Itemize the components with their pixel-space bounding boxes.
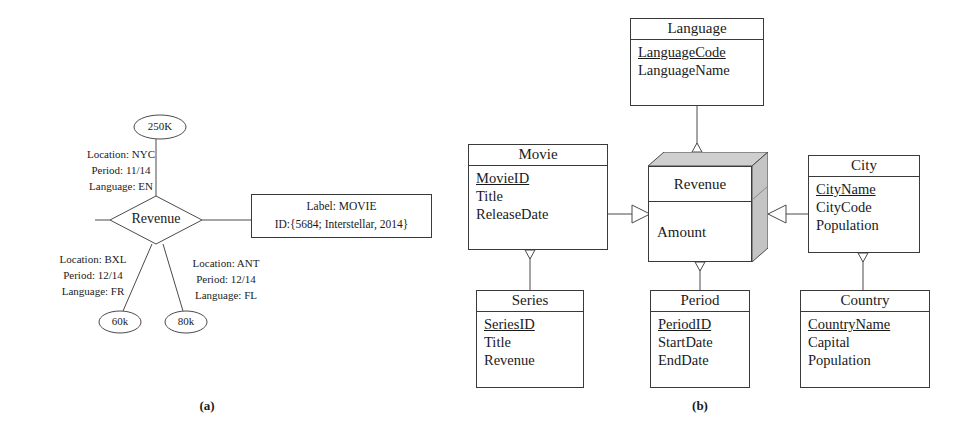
entity-city: City CityName CityCode Population xyxy=(808,155,920,253)
annotation-bxl: Location: BXL Period: 12/14 Language: FR xyxy=(60,252,127,300)
caption-b: (b) xyxy=(692,398,708,413)
entity-series-attributes: SeriesID Title Revenue xyxy=(477,312,583,373)
attribute-citycode: CityCode xyxy=(816,198,912,216)
entity-series: Series SeriesID Title Revenue xyxy=(476,290,584,388)
attribute-languagename: LanguageName xyxy=(638,61,756,79)
entity-language-title: Language xyxy=(631,19,763,40)
entity-series-title: Series xyxy=(477,291,583,312)
attribute-releasedate: ReleaseDate xyxy=(476,205,600,223)
annotation-ant-location: Location: ANT xyxy=(193,256,260,272)
annotation-nyc-period: Period: 11/14 xyxy=(87,163,155,179)
attribute-languagecode: LanguageCode xyxy=(638,43,756,61)
entity-country-attributes: CountryName Capital Population xyxy=(801,312,929,373)
attribute-movieid: MovieID xyxy=(476,169,600,187)
entity-country: Country CountryName Capital Population xyxy=(800,290,930,388)
value-label-60k: 60k xyxy=(112,315,129,328)
annotation-bxl-location: Location: BXL xyxy=(60,252,127,268)
value-label-80k: 80k xyxy=(178,315,195,328)
value-label-250k: 250K xyxy=(148,120,172,133)
annotation-ant: Location: ANT Period: 12/14 Language: FL xyxy=(193,256,260,304)
attribute-city-population: Population xyxy=(816,216,912,234)
revenue-relationship-label: Revenue xyxy=(132,211,181,228)
entity-country-title: Country xyxy=(801,291,929,312)
attribute-startdate: StartDate xyxy=(658,333,742,351)
entity-city-title: City xyxy=(809,156,919,177)
attribute-capital: Capital xyxy=(808,333,922,351)
entity-movie-attributes: MovieID Title ReleaseDate xyxy=(469,166,607,227)
entity-period: Period PeriodID StartDate EndDate xyxy=(650,290,750,388)
cube-front-face: Revenue Amount xyxy=(648,166,752,262)
edge-diamond-60k xyxy=(123,244,152,311)
attribute-country-population: Population xyxy=(808,351,922,369)
annotation-nyc-location: Location: NYC xyxy=(87,147,155,163)
annotation-bxl-language: Language: FR xyxy=(60,284,127,300)
entity-movie: Movie MovieID Title ReleaseDate xyxy=(468,144,608,250)
attribute-periodid: PeriodID xyxy=(658,315,742,333)
label-box: Label: MOVIE ID:{5684; Interstellar, 201… xyxy=(251,194,432,238)
attribute-movie-title: Title xyxy=(476,187,600,205)
attribute-cityname: CityName xyxy=(816,180,912,198)
edge-diamond-80k xyxy=(163,244,183,311)
entity-period-title: Period xyxy=(651,291,749,312)
attribute-countryname: CountryName xyxy=(808,315,922,333)
entity-period-attributes: PeriodID StartDate EndDate xyxy=(651,312,749,373)
attribute-series-title: Title xyxy=(484,333,576,351)
attribute-series-revenue: Revenue xyxy=(484,351,576,369)
entity-language-attributes: LanguageCode LanguageName xyxy=(631,40,763,83)
relationship-arrow-city xyxy=(768,205,786,223)
entity-revenue-title: Revenue xyxy=(649,167,751,202)
annotation-bxl-period: Period: 12/14 xyxy=(60,268,127,284)
label-box-label: Label: MOVIE xyxy=(252,198,431,216)
entity-city-attributes: CityName CityCode Population xyxy=(809,177,919,238)
entity-revenue-cube: Revenue Amount xyxy=(648,152,768,262)
attribute-enddate: EndDate xyxy=(658,351,742,369)
entity-language: Language LanguageCode LanguageName xyxy=(630,18,764,106)
figure-container: 250K 60k 80k Revenue Location: NYC Perio… xyxy=(0,0,977,445)
entity-movie-title: Movie xyxy=(469,145,607,166)
annotation-nyc: Location: NYC Period: 11/14 Language: EN xyxy=(87,147,155,195)
label-box-id: ID:{5684; Interstellar, 2014} xyxy=(252,216,431,234)
attribute-amount: Amount xyxy=(649,202,751,262)
annotation-ant-language: Language: FL xyxy=(193,288,260,304)
attribute-seriesid: SeriesID xyxy=(484,315,576,333)
annotation-nyc-language: Language: EN xyxy=(87,179,155,195)
caption-a: (a) xyxy=(199,398,214,413)
annotation-ant-period: Period: 12/14 xyxy=(193,272,260,288)
